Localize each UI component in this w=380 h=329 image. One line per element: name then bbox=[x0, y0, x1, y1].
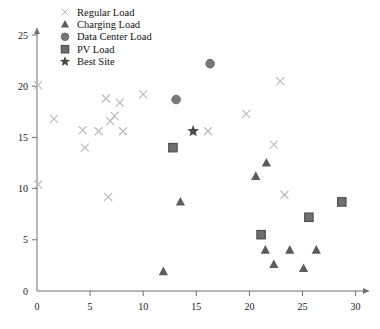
plot-canvas: 0510152025051015202530 Regular LoadCharg… bbox=[0, 0, 380, 329]
x-tick-label: 15 bbox=[191, 301, 201, 312]
marker-x-icon bbox=[116, 99, 124, 107]
y-axis-arrow-icon bbox=[34, 28, 40, 34]
marker-x-icon bbox=[270, 141, 278, 149]
scatter-plot-figure: 0510152025051015202530 Regular LoadCharg… bbox=[0, 0, 380, 329]
data-points-group bbox=[34, 59, 346, 275]
marker-x-icon bbox=[139, 90, 147, 98]
series-data-center-load bbox=[172, 59, 215, 103]
marker-x-icon bbox=[280, 191, 288, 199]
marker-triangle-icon bbox=[61, 20, 69, 28]
marker-circle-icon bbox=[206, 59, 215, 68]
series-best-site bbox=[187, 125, 199, 136]
marker-triangle-icon bbox=[251, 171, 260, 180]
marker-circle-icon bbox=[61, 33, 69, 41]
y-tick-label: 15 bbox=[18, 132, 28, 143]
marker-square-icon bbox=[257, 230, 265, 238]
x-axis-arrow-icon bbox=[363, 288, 369, 294]
marker-star-icon bbox=[187, 125, 199, 136]
tick-labels-group: 0510152025051015202530 bbox=[18, 30, 361, 313]
y-tick-label: 25 bbox=[18, 30, 28, 41]
marker-star-icon bbox=[60, 56, 70, 66]
x-tick-label: 0 bbox=[35, 301, 40, 312]
marker-x-icon bbox=[119, 127, 127, 135]
marker-x-icon bbox=[95, 127, 103, 135]
legend-item-best-site[interactable]: Best Site bbox=[60, 56, 115, 67]
marker-x-icon bbox=[61, 8, 68, 15]
marker-x-icon bbox=[102, 94, 110, 102]
y-tick-label: 5 bbox=[23, 234, 28, 245]
series-charging-load bbox=[159, 158, 321, 275]
marker-x-icon bbox=[79, 126, 87, 134]
x-tick-label: 30 bbox=[351, 301, 361, 312]
marker-x-icon bbox=[111, 112, 119, 120]
marker-x-icon bbox=[204, 127, 212, 135]
legend-item-pv-load[interactable]: PV Load bbox=[61, 44, 115, 55]
x-tick-label: 5 bbox=[88, 301, 93, 312]
marker-square-icon bbox=[338, 198, 346, 206]
marker-triangle-icon bbox=[312, 245, 321, 254]
marker-x-icon bbox=[81, 144, 89, 152]
marker-x-icon bbox=[34, 181, 42, 189]
y-tick-label: 20 bbox=[18, 81, 28, 92]
marker-triangle-icon bbox=[269, 259, 278, 268]
x-tick-label: 25 bbox=[298, 301, 308, 312]
marker-triangle-icon bbox=[299, 263, 308, 272]
legend-item-label: PV Load bbox=[77, 44, 115, 55]
marker-triangle-icon bbox=[285, 245, 294, 254]
series-pv-load bbox=[169, 143, 346, 238]
legend-item-label: Data Center Load bbox=[77, 31, 152, 42]
marker-square-icon bbox=[305, 213, 313, 221]
legend-item-data-center-load[interactable]: Data Center Load bbox=[61, 31, 152, 42]
axes-group bbox=[32, 28, 369, 296]
legend-item-regular-load[interactable]: Regular Load bbox=[61, 7, 135, 18]
y-tick-label: 10 bbox=[18, 183, 28, 194]
marker-square-icon bbox=[61, 46, 68, 53]
marker-triangle-icon bbox=[176, 197, 185, 206]
series-regular-load bbox=[34, 77, 288, 201]
marker-triangle-icon bbox=[159, 267, 168, 276]
marker-x-icon bbox=[104, 193, 112, 201]
legend-item-label: Charging Load bbox=[77, 19, 141, 30]
marker-triangle-icon bbox=[261, 245, 270, 254]
marker-x-icon bbox=[242, 110, 250, 118]
y-tick-label: 0 bbox=[23, 286, 28, 297]
marker-x-icon bbox=[106, 117, 114, 125]
legend-item-charging-load[interactable]: Charging Load bbox=[61, 19, 141, 30]
x-tick-label: 20 bbox=[244, 301, 254, 312]
marker-x-icon bbox=[50, 115, 58, 123]
x-tick-label: 10 bbox=[138, 301, 148, 312]
marker-square-icon bbox=[169, 143, 177, 151]
marker-circle-icon bbox=[172, 95, 181, 104]
marker-x-icon bbox=[276, 77, 284, 85]
marker-x-icon bbox=[34, 81, 42, 89]
legend-item-label: Best Site bbox=[77, 56, 115, 67]
legend-group: Regular LoadCharging LoadData Center Loa… bbox=[60, 7, 153, 68]
legend-item-label: Regular Load bbox=[77, 7, 135, 18]
marker-triangle-icon bbox=[262, 158, 271, 167]
